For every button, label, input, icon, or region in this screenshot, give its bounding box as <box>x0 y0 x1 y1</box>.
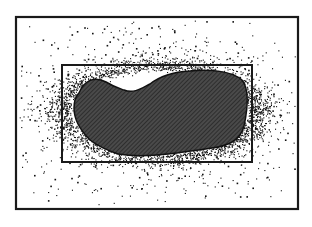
hatched-density-region <box>74 70 247 155</box>
scatter-figure <box>0 0 312 227</box>
plot-canvas <box>0 0 312 227</box>
